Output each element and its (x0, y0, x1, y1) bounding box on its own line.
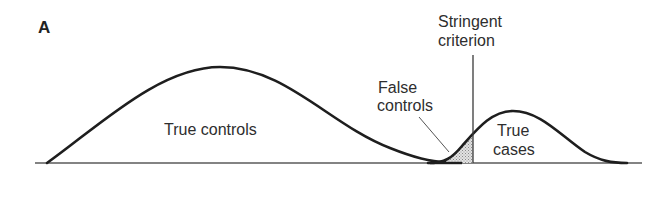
false-controls-label-line2: controls (377, 96, 433, 115)
distribution-diagram (0, 0, 665, 199)
true-cases-label-line2: cases (493, 140, 535, 159)
false-controls-leader-line (419, 117, 449, 152)
true-cases-label-line1: True (497, 121, 529, 140)
false-controls-label-line1: False (378, 78, 417, 97)
criterion-label-line2: criterion (438, 31, 495, 50)
true-controls-label: True controls (164, 120, 257, 139)
criterion-label-line1: Stringent (438, 12, 502, 31)
